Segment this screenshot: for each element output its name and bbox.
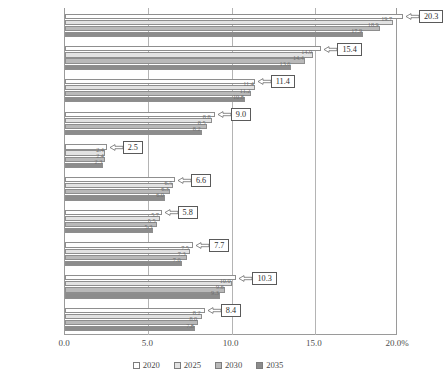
bar-group: 2.42.42.32.5 — [65, 139, 396, 172]
legend: 2020202520302035 — [0, 360, 416, 370]
bar-関東-2035 — [65, 97, 245, 102]
bar-関東-2025 — [65, 85, 255, 90]
callout-value: 2.5 — [123, 141, 143, 154]
bar-東北-2030 — [65, 58, 305, 63]
callout-北陸: 2.5 — [110, 142, 143, 153]
bar-四国-2020 — [65, 275, 236, 280]
callout-東海: 6.6 — [178, 175, 211, 186]
callout-value: 8.4 — [221, 304, 241, 317]
bar-value-label: 18.9 — [368, 22, 380, 28]
arrow-left-icon — [218, 111, 231, 118]
bar-九州・沖縄-2035 — [65, 326, 195, 331]
bar-北海道-2020 — [65, 14, 403, 19]
legend-swatch-2025 — [174, 362, 181, 369]
bar-甲信越-2020 — [65, 112, 215, 117]
bar-東海-2035 — [65, 195, 165, 200]
bar-東海-2025 — [65, 183, 173, 188]
bar-group: 7.57.37.07.7 — [65, 237, 396, 270]
arrow-left-icon — [208, 307, 221, 314]
bar-甲信越-2025 — [65, 118, 212, 123]
x-tick-label: 15.0 — [306, 338, 322, 348]
callout-value: 10.3 — [252, 272, 276, 285]
bar-中国-2020 — [65, 242, 193, 247]
callout-value: 5.8 — [178, 206, 198, 219]
bar-value-label: 13.6 — [280, 61, 292, 67]
arrow-left-icon — [406, 13, 419, 20]
bar-東北-2025 — [65, 52, 313, 57]
bar-北海道-2030 — [65, 26, 380, 31]
callout-四国: 10.3 — [239, 273, 276, 284]
callout-近畿: 5.8 — [165, 207, 198, 218]
bar-group: 6.56.36.06.6 — [65, 172, 396, 205]
legend-swatch-2030 — [215, 362, 222, 369]
legend-label: 2025 — [184, 360, 201, 370]
arrow-left-icon — [196, 242, 209, 249]
bar-東北-2020 — [65, 46, 321, 51]
callout-value: 15.4 — [337, 43, 361, 56]
bar-東海-2030 — [65, 189, 170, 194]
callout-甲信越: 9.0 — [218, 109, 251, 120]
bar-value-label: 5.3 — [145, 224, 154, 230]
bar-東北-2035 — [65, 65, 291, 70]
bar-group: 8.88.58.29.0 — [65, 106, 396, 139]
bar-group: 14.914.413.615.4 — [65, 41, 396, 74]
bar-近畿-2025 — [65, 216, 160, 221]
callout-九州・沖縄: 8.4 — [208, 305, 241, 316]
bar-中国-2035 — [65, 261, 182, 266]
bar-group: 5.75.55.35.8 — [65, 204, 396, 237]
bar-関東-2020 — [65, 79, 255, 84]
bar-value-label: 9.3 — [211, 290, 220, 296]
callout-value: 11.4 — [271, 75, 295, 88]
bar-近畿-2020 — [65, 210, 162, 215]
legend-label: 2035 — [266, 360, 283, 370]
bar-四国-2025 — [65, 281, 232, 286]
legend-label: 2030 — [225, 360, 242, 370]
x-tick-label: 20.0% — [385, 338, 408, 348]
x-tick-label: 5.0 — [142, 338, 153, 348]
callout-北海道: 20.3 — [406, 11, 443, 22]
callout-中国: 7.7 — [196, 240, 229, 251]
bar-四国-2030 — [65, 287, 225, 292]
arrow-left-icon — [324, 46, 337, 53]
bar-group: 8.28.07.88.4 — [65, 302, 396, 335]
bar-甲信越-2035 — [65, 130, 202, 135]
bar-value-label: 10.8 — [233, 94, 245, 100]
bar-中国-2030 — [65, 255, 187, 260]
legend-label: 2020 — [143, 360, 160, 370]
callout-value: 6.6 — [191, 174, 211, 187]
legend-swatch-2035 — [256, 362, 263, 369]
bar-group: 19.718.917.920.3 — [65, 8, 396, 41]
bar-value-label: 7.8 — [186, 323, 195, 329]
arrow-left-icon — [258, 78, 271, 85]
bar-東海-2020 — [65, 177, 175, 182]
x-tick-label: 0.0 — [58, 338, 69, 348]
legend-item-2025: 2025 — [174, 360, 201, 370]
bar-九州・沖縄-2020 — [65, 308, 205, 313]
bar-甲信越-2030 — [65, 124, 207, 129]
bar-group: 11.411.210.811.4 — [65, 73, 396, 106]
callout-value: 20.3 — [419, 10, 443, 23]
arrow-left-icon — [239, 275, 252, 282]
bar-value-label: 7.0 — [173, 257, 182, 263]
bar-近畿-2035 — [65, 228, 153, 233]
legend-item-2035: 2035 — [256, 360, 283, 370]
bar-近畿-2030 — [65, 222, 157, 227]
legend-swatch-2020 — [133, 362, 140, 369]
bar-group: 10.09.69.310.3 — [65, 270, 396, 303]
arrow-left-icon — [178, 177, 191, 184]
legend-item-2020: 2020 — [133, 360, 160, 370]
bar-value-label: 2.3 — [95, 159, 104, 165]
bar-北海道-2035 — [65, 32, 363, 37]
bar-value-label: 14.4 — [293, 55, 305, 61]
callout-東北: 15.4 — [324, 44, 361, 55]
legend-item-2030: 2030 — [215, 360, 242, 370]
arrow-left-icon — [110, 144, 123, 151]
bar-value-label: 19.7 — [381, 16, 393, 22]
callout-value: 9.0 — [231, 108, 251, 121]
bar-九州・沖縄-2030 — [65, 320, 198, 325]
bar-北海道-2025 — [65, 20, 393, 25]
bar-value-label: 8.2 — [193, 126, 202, 132]
bar-value-label: 17.9 — [351, 28, 363, 34]
bar-四国-2035 — [65, 293, 220, 298]
